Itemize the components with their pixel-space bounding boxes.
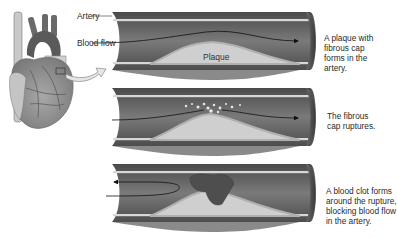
artery-bulge [112,222,300,232]
artery-stage-2 [112,88,316,156]
plaque-label: Plaque [203,52,229,62]
diagram: Artery Blood flow Plaque A plaque with f… [0,0,397,239]
caption-line: in the artery. [326,216,397,226]
caption-line: around the rupture, [326,196,397,206]
caption-line: forms in the [324,53,397,63]
heart-illustration [9,12,106,128]
artery-bulge [112,70,300,80]
artery-label: Artery [77,11,99,21]
caption-line: cap ruptures. [327,121,397,131]
artery-stage-3 [106,164,316,232]
caption-line: A blood clot forms [326,186,397,196]
inner-lining [113,95,309,97]
caption-line: blocking blood flow [326,206,397,216]
caption-line: The fibrous [327,111,397,121]
inner-lining [113,171,309,173]
caption-stage-1: A plaque with fibrous cap forms in the a… [324,33,397,73]
blood-flow-label: Blood flow [77,38,116,48]
caption-line: fibrous cap [324,43,397,53]
caption-line: A plaque with [324,33,397,43]
inner-lining [113,19,309,21]
artery-bulge [112,146,300,156]
artery-stage-1 [92,12,316,80]
caption-stage-3: A blood clot forms around the rupture, b… [326,186,397,226]
caption-line: artery. [324,63,397,73]
caption-stage-2: The fibrous cap ruptures. [327,111,397,131]
